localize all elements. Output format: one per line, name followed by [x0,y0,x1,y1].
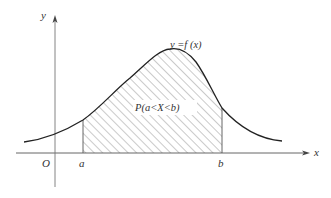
a-label: a [79,157,85,169]
y-axis-label: y [40,9,46,21]
y-axis [53,15,58,187]
x-axis-label: x [313,146,319,158]
b-label: b [218,157,224,169]
density-diagram: y x O a b y =f (x) P(a<X<b) [0,0,331,198]
origin-label: O [42,157,50,169]
area-probability-label: P(a<X<b) [134,102,180,114]
curve-equation-label: y =f (x) [169,39,202,51]
